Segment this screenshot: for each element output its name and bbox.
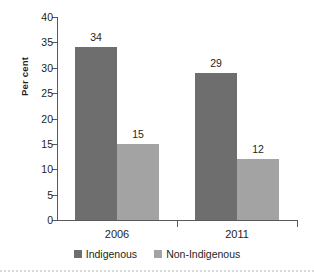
x-axis-category-label-2006: 2006 xyxy=(105,229,129,240)
y-axis-label: Per cent xyxy=(19,57,30,96)
y-axis-tick-label: 0 xyxy=(47,215,53,226)
bar-2006-indigenous-value-label: 34 xyxy=(90,32,102,43)
y-axis-tick-label: 40 xyxy=(41,12,53,23)
y-axis-tick-label: 25 xyxy=(41,88,53,99)
y-axis-tick-label: 35 xyxy=(41,37,53,48)
bottom-dotted-rule xyxy=(0,270,314,272)
legend-swatch-icon xyxy=(154,250,162,258)
chart-legend: IndigenousNon-Indigenous xyxy=(0,249,314,260)
y-axis-tick-label: 20 xyxy=(41,113,53,124)
x-axis-separator-tick xyxy=(177,220,178,227)
legend-item-indigenous[interactable]: Indigenous xyxy=(74,249,137,260)
plot-area xyxy=(57,17,297,220)
y-axis-tick-label: 5 xyxy=(47,189,53,200)
bar-2011-indigenous xyxy=(195,73,237,220)
bar-2006-non-indigenous-value-label: 15 xyxy=(132,129,144,140)
legend-item-non-indigenous[interactable]: Non-Indigenous xyxy=(154,249,240,260)
x-axis-separator-tick xyxy=(297,220,298,227)
y-axis-tick-label: 15 xyxy=(41,139,53,150)
bar-2011-non-indigenous xyxy=(237,159,279,220)
legend-item-label: Indigenous xyxy=(86,249,137,260)
bar-2006-indigenous xyxy=(75,47,117,220)
bar-2006-non-indigenous xyxy=(117,144,159,220)
bar-chart-figure: Per cent 4035302520151050 34152912 20062… xyxy=(0,0,314,276)
legend-swatch-icon xyxy=(74,250,82,258)
bar-2011-indigenous-value-label: 29 xyxy=(210,58,222,69)
y-axis-tick-label: 10 xyxy=(41,164,53,175)
legend-item-label: Non-Indigenous xyxy=(166,249,240,260)
y-axis-tick-label: 30 xyxy=(41,63,53,74)
bar-2011-non-indigenous-value-label: 12 xyxy=(252,144,264,155)
x-axis-category-label-2011: 2011 xyxy=(225,229,249,240)
